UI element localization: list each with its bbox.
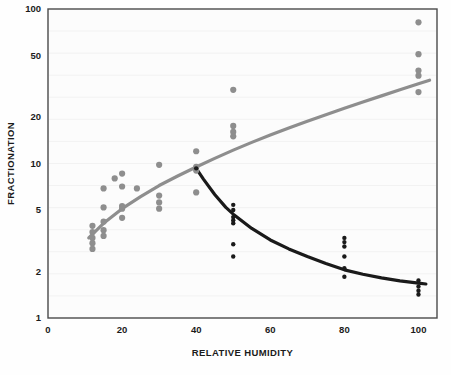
- y-tick-label: 20: [30, 111, 41, 122]
- data-point: [119, 171, 125, 177]
- y-tick-label: 100: [25, 3, 41, 14]
- data-point: [342, 240, 346, 244]
- data-point: [231, 208, 235, 212]
- data-point: [156, 192, 162, 198]
- data-point: [342, 254, 346, 258]
- data-point: [89, 235, 95, 241]
- data-point: [156, 206, 162, 212]
- x-tick-label: 40: [191, 324, 202, 335]
- data-point: [100, 185, 106, 191]
- data-point: [100, 204, 106, 210]
- data-point: [416, 292, 420, 296]
- data-point: [231, 203, 235, 207]
- chart-figure: 020406080100 125102050100 RELATIVE HUMID…: [0, 0, 451, 375]
- data-point: [89, 246, 95, 252]
- data-point: [89, 223, 95, 229]
- data-point: [415, 19, 421, 25]
- data-point: [89, 229, 95, 235]
- data-point: [231, 221, 235, 225]
- x-axis-title: RELATIVE HUMIDITY: [192, 347, 294, 358]
- data-point: [342, 266, 346, 270]
- y-tick-label: 10: [30, 158, 41, 169]
- y-tick-label: 50: [30, 50, 41, 61]
- data-point: [416, 284, 420, 288]
- y-tick-label: 5: [36, 204, 42, 215]
- data-point: [230, 87, 236, 93]
- x-tick-label: 100: [411, 324, 427, 335]
- x-tick-label: 20: [117, 324, 128, 335]
- data-point: [230, 123, 236, 129]
- data-point: [415, 89, 421, 95]
- data-point: [134, 185, 140, 191]
- y-tick-label: 1: [36, 312, 42, 323]
- data-point: [100, 227, 106, 233]
- data-point: [89, 240, 95, 246]
- data-point: [100, 233, 106, 239]
- data-point: [416, 278, 420, 282]
- y-axis-title: FRACTIONATION: [5, 122, 16, 205]
- x-tick-label: 60: [265, 324, 276, 335]
- x-tick-label: 80: [339, 324, 350, 335]
- data-point: [100, 219, 106, 225]
- data-point: [415, 73, 421, 79]
- data-point: [193, 148, 199, 154]
- data-point: [194, 166, 198, 170]
- data-point: [119, 183, 125, 189]
- data-point: [342, 236, 346, 240]
- data-point: [342, 244, 346, 248]
- data-point: [156, 162, 162, 168]
- data-point: [415, 51, 421, 57]
- data-point: [119, 215, 125, 221]
- data-point: [193, 189, 199, 195]
- data-point: [342, 275, 346, 279]
- data-point: [231, 254, 235, 258]
- data-point: [231, 242, 235, 246]
- scatter-plot-svg: 020406080100 125102050100 RELATIVE HUMID…: [0, 0, 451, 375]
- data-point: [112, 175, 118, 181]
- x-tick-label: 0: [45, 324, 50, 335]
- data-point: [119, 206, 125, 212]
- y-tick-label: 2: [36, 266, 41, 277]
- data-point: [156, 199, 162, 205]
- data-point: [230, 133, 236, 139]
